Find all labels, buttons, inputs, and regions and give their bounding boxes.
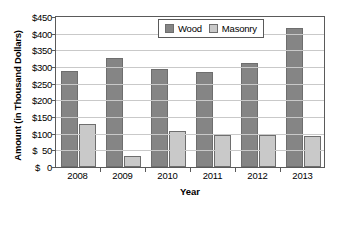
y-axis-tick-label: $450 [10, 12, 52, 23]
y-axis-tick-label: $300 [10, 62, 52, 73]
y-axis-tick-label: $100 [10, 128, 52, 139]
gridline [56, 117, 324, 118]
legend-label-masonry: Masonry [222, 23, 257, 34]
gridline [56, 134, 324, 135]
bar-group-2008 [56, 17, 101, 167]
bar-wood-2008 [61, 71, 78, 167]
bar-chart: Amount (in Thousand Dollars) $450$400$35… [0, 0, 343, 225]
legend-entry-wood: Wood [165, 23, 202, 34]
bar-wood-2012 [241, 63, 258, 167]
gridline [56, 150, 324, 151]
gridline [56, 100, 324, 101]
y-axis-tick-label: $250 [10, 78, 52, 89]
y-axis-tick-label: $ 0 [10, 162, 52, 173]
y-axis-tick-label: $ 50 [10, 145, 52, 156]
bar-wood-2011 [196, 72, 213, 167]
bar-masonry-2009 [124, 156, 141, 167]
bars-layer [56, 17, 324, 167]
legend-entry-masonry: Masonry [209, 23, 257, 34]
y-axis-tick-label: $200 [10, 95, 52, 106]
bar-group-2009 [101, 17, 146, 167]
y-axis-tick-label: $350 [10, 45, 52, 56]
y-axis-tick-label: $400 [10, 28, 52, 39]
plot-area [55, 16, 325, 168]
y-axis-tick-label: $150 [10, 112, 52, 123]
legend-label-wood: Wood [178, 23, 202, 34]
x-axis-tick-label-2013: 2013 [273, 170, 333, 181]
bar-group-2012 [236, 17, 281, 167]
gridline [56, 67, 324, 68]
gridline [56, 50, 324, 51]
bar-wood-2013 [286, 28, 303, 167]
legend: Wood Masonry [158, 19, 264, 38]
x-axis-title: Year [55, 186, 325, 197]
legend-swatch-wood-icon [165, 24, 174, 33]
bar-group-2013 [281, 17, 326, 167]
bar-masonry-2013 [304, 136, 321, 167]
bar-group-2010 [146, 17, 191, 167]
gridline [56, 84, 324, 85]
bar-masonry-2008 [79, 124, 96, 167]
legend-swatch-masonry-icon [209, 24, 218, 33]
bar-group-2011 [191, 17, 236, 167]
bar-masonry-2010 [169, 131, 186, 167]
